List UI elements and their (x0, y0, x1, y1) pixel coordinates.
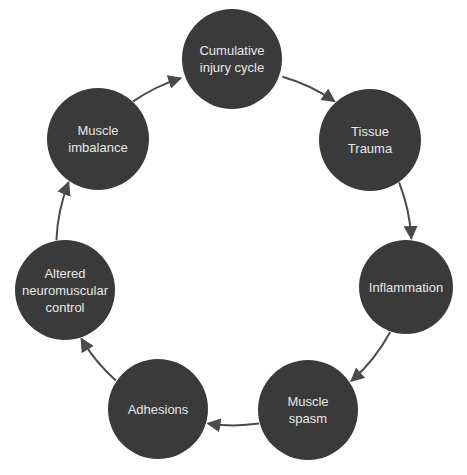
cycle-arrow (208, 424, 259, 426)
cycle-arrow (399, 182, 411, 238)
cycle-node: Tissue Trauma (319, 89, 421, 191)
cycle-node: Muscle imbalance (47, 88, 149, 190)
cycle-node: Muscle spasm (258, 360, 358, 460)
cycle-node: Altered neuromuscular control (15, 240, 115, 340)
cycle-node: Adhesions (108, 359, 208, 459)
cycle-node: Inflammation (359, 240, 453, 334)
cycle-node: Cumulative injury cycle (182, 9, 282, 109)
cycle-arrow (351, 332, 390, 381)
cycle-arrow (81, 339, 116, 381)
cycle-arrow (283, 77, 335, 102)
cycle-arrow (56, 182, 68, 240)
cycle-arrow (133, 78, 181, 101)
